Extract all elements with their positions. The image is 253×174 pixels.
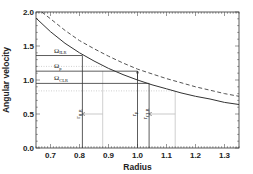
- level-label-ilr: ΩILR: [54, 47, 66, 56]
- radius-label-ilr: rILR: [74, 109, 83, 119]
- y-axis-title: Angular velocity: [1, 47, 11, 113]
- radius-label-clr: rCLR: [141, 108, 150, 119]
- y-tick-label: 0.0: [23, 144, 35, 153]
- x-tick-label: 0.8: [74, 151, 86, 160]
- chart-canvas: ΩILRΩpΩCLRrILRrprCLR 0.70.80.91.01.11.21…: [0, 0, 253, 174]
- x-tick-label: 1.0: [132, 151, 144, 160]
- angular-velocity-chart: ΩILRΩpΩCLRrILRrprCLR 0.70.80.91.01.11.21…: [0, 0, 253, 174]
- level-label-clr: ΩCLR: [54, 74, 68, 83]
- y-tick-label: 1.0: [23, 76, 35, 85]
- x-tick-label: 1.2: [190, 151, 202, 160]
- x-axis-title: Radius: [123, 162, 152, 172]
- y-tick-label: 2.0: [23, 8, 35, 17]
- solid-guide-lines: [36, 56, 149, 148]
- radius-label-p: rp: [130, 111, 139, 116]
- x-tick-label: 1.1: [161, 151, 173, 160]
- y-tick-label: 0.5: [23, 110, 35, 119]
- x-tick-label: 0.7: [45, 151, 57, 160]
- arrows: [82, 71, 175, 114]
- level-label-p: Ωp: [54, 62, 62, 71]
- x-tick-label: 1.3: [219, 151, 231, 160]
- y-tick-label: 1.5: [23, 42, 35, 51]
- x-tick-label: 0.9: [103, 151, 115, 160]
